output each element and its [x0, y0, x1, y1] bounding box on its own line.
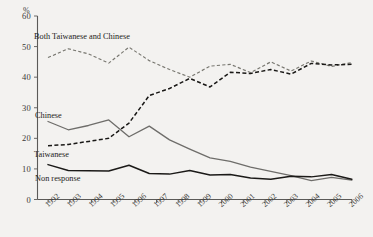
series-label: Taiwanese — [34, 150, 69, 159]
x-tick-label: 1993 — [65, 192, 83, 209]
series-label: Chinese — [35, 111, 62, 120]
x-tick-label: 2005 — [325, 192, 343, 209]
x-tick-label: 1996 — [130, 192, 148, 209]
x-tick-label: 2002 — [260, 192, 278, 209]
x-tick-label: 2001 — [239, 192, 257, 209]
series-lines — [48, 47, 352, 180]
series-label: Non response — [35, 174, 81, 183]
x-tick-label: 2003 — [282, 192, 300, 209]
series-annotations: Both Taiwanese and ChineseChineseTaiwane… — [34, 32, 130, 183]
x-tick-labels: 1992199319941995199619971998199920002001… — [43, 192, 365, 209]
x-tick-label: 2004 — [304, 192, 322, 209]
series-line — [48, 165, 352, 180]
y-tick-label: 50 — [22, 42, 31, 52]
line-chart: 0102030405060 % 199219931994199519961997… — [0, 0, 373, 237]
x-tick-label: 1998 — [174, 192, 192, 209]
series-line — [48, 63, 352, 145]
x-tick-label: 1999 — [195, 192, 213, 209]
x-tick-label: 1994 — [87, 192, 105, 209]
y-tick-labels: 0102030405060 — [22, 11, 31, 205]
y-tick-label: 10 — [22, 164, 31, 174]
x-tick-label: 1992 — [43, 192, 61, 209]
series-line — [48, 47, 352, 77]
x-tick-label: 2000 — [217, 192, 235, 209]
y-tick-label: 30 — [22, 103, 31, 113]
x-tick-label: 2006 — [347, 192, 365, 209]
y-tick-label: 40 — [22, 72, 31, 82]
y-tick-label: 0 — [26, 195, 31, 205]
series-label: Both Taiwanese and Chinese — [34, 32, 130, 41]
x-tick-label: 1995 — [108, 192, 126, 209]
y-axis-unit-label: % — [23, 6, 30, 15]
y-tick-label: 20 — [22, 133, 31, 143]
chart-container: 0102030405060 % 199219931994199519961997… — [0, 0, 373, 237]
x-tick-label: 1997 — [152, 192, 170, 209]
